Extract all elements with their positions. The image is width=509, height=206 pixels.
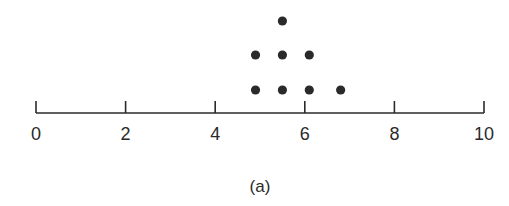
data-dot [278, 50, 287, 59]
x-tick-label: 0 [31, 124, 41, 144]
data-dot [305, 50, 314, 59]
data-dot [305, 85, 314, 94]
x-tick-label: 8 [389, 124, 399, 144]
data-dot [278, 16, 287, 25]
x-tick-label: 4 [210, 124, 220, 144]
data-dots [251, 16, 345, 94]
data-dot [251, 85, 260, 94]
data-dot [251, 50, 260, 59]
x-tick-label: 2 [121, 124, 131, 144]
x-tick-label: 6 [300, 124, 310, 144]
dot-plot-figure: 0246810 (a) [0, 0, 509, 206]
figure-caption: (a) [250, 177, 271, 196]
data-dot [278, 85, 287, 94]
data-dot [336, 85, 345, 94]
x-axis-ticks [36, 101, 484, 113]
x-tick-label: 10 [474, 124, 494, 144]
x-axis-tick-labels: 0246810 [31, 124, 494, 144]
dot-plot: 0246810 (a) [0, 0, 509, 206]
